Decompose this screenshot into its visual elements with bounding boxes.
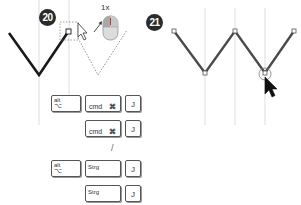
command-symbol: ⌘ — [109, 103, 116, 111]
cursor-arrow-icon — [78, 23, 87, 40]
ghost-path — [78, 30, 127, 75]
key-j: J — [125, 160, 141, 177]
key-cmd: cmd ⌘ — [85, 95, 121, 112]
key-cmd: cmd ⌘ — [85, 120, 121, 137]
cursor-arrow-black-icon — [265, 77, 277, 97]
click-count-label: 1x — [101, 3, 109, 12]
step-badge-20: 20 — [39, 9, 56, 26]
key-alt: alt ⌥ — [51, 95, 81, 112]
anchor-point — [66, 29, 71, 34]
key-label: cmd — [89, 128, 102, 135]
command-symbol: ⌘ — [109, 128, 116, 136]
mouse-icon — [103, 16, 118, 40]
option-symbol: ⌥ — [54, 102, 62, 110]
w-path — [174, 31, 294, 73]
key-label: J — [126, 99, 140, 108]
key-strg: Strg — [85, 160, 121, 177]
platform-separator: / — [111, 143, 114, 153]
key-label: cmd — [89, 103, 102, 110]
key-j: J — [125, 185, 141, 202]
key-alt: alt ⌥ — [51, 160, 81, 177]
key-label: J — [126, 124, 140, 133]
key-j: J — [125, 120, 141, 137]
pointer-line — [94, 23, 101, 32]
key-strg: Strg — [85, 185, 121, 202]
option-symbol: ⌥ — [54, 167, 62, 175]
diagram-artwork — [0, 0, 301, 205]
key-j: J — [125, 95, 141, 112]
key-label: Strg — [88, 189, 99, 195]
key-label: Strg — [88, 164, 99, 170]
step-badge-21: 21 — [146, 14, 163, 31]
key-label: J — [126, 164, 140, 173]
v-path — [9, 32, 68, 75]
key-label: J — [126, 189, 140, 198]
